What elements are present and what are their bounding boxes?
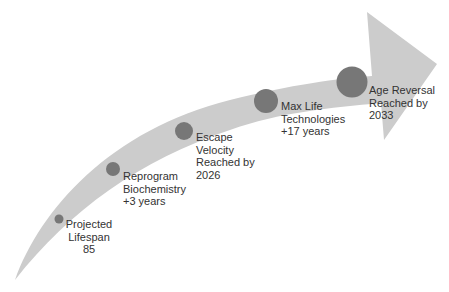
- label-line: Velocity: [196, 144, 255, 157]
- label-line: Age Reversal: [369, 84, 435, 97]
- label-line: Projected: [62, 218, 116, 231]
- label-line: 2033: [369, 109, 435, 122]
- milestone-dot-3: [175, 122, 193, 140]
- milestone-dot-5: [337, 67, 368, 98]
- milestone-label-2: Reprogram Biochemistry +3 years: [123, 170, 186, 208]
- label-line: Reached by: [196, 156, 255, 169]
- milestone-dot-2: [106, 162, 120, 176]
- label-line: Reprogram: [123, 170, 186, 183]
- label-line: 2026: [196, 169, 255, 182]
- label-line: 85: [62, 243, 116, 256]
- label-line: Technologies: [281, 113, 345, 126]
- label-line: Max Life: [281, 100, 345, 113]
- label-line: +17 years: [281, 125, 345, 138]
- label-line: Reached by: [369, 97, 435, 110]
- label-line: Lifespan: [62, 231, 116, 244]
- milestone-label-3: Escape Velocity Reached by 2026: [196, 131, 255, 181]
- label-line: +3 years: [123, 195, 186, 208]
- milestone-label-4: Max Life Technologies +17 years: [281, 100, 345, 138]
- milestone-label-5: Age Reversal Reached by 2033: [369, 84, 435, 122]
- milestone-dot-4: [254, 89, 278, 113]
- label-line: Escape: [196, 131, 255, 144]
- label-line: Biochemistry: [123, 183, 186, 196]
- milestone-label-1: Projected Lifespan 85: [62, 218, 116, 256]
